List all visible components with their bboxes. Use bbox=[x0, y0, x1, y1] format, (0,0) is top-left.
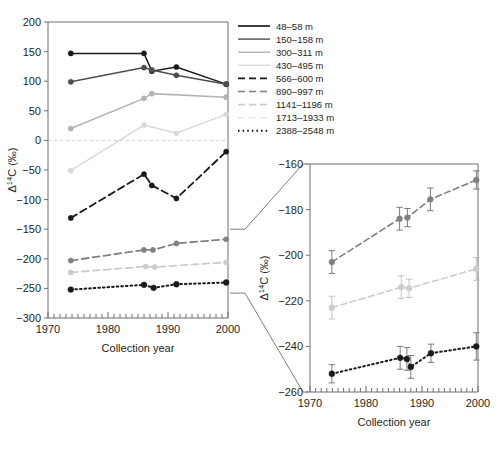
data-point bbox=[473, 344, 479, 350]
y-tick-label: −160 bbox=[278, 158, 303, 170]
inset-x-axis-title: Collection year bbox=[358, 416, 431, 428]
legend-item-2: 150–158 m bbox=[238, 34, 324, 45]
series-4 bbox=[68, 112, 229, 173]
legend-item-6: 890–997 m bbox=[238, 86, 324, 97]
legend-item-7: 1141–1196 m bbox=[238, 99, 333, 110]
y-tick-label: −100 bbox=[16, 194, 41, 206]
inset-series-1 bbox=[329, 171, 480, 274]
data-point bbox=[174, 131, 179, 136]
data-point bbox=[405, 215, 411, 221]
data-point bbox=[68, 168, 73, 173]
inset-y-axis-title: Δ14C (‰) bbox=[257, 255, 270, 300]
data-point bbox=[174, 281, 180, 287]
series-8 bbox=[68, 280, 229, 293]
data-point bbox=[404, 356, 410, 362]
legend-label: 48–58 m bbox=[276, 21, 313, 32]
figure-svg: 200150100500−50−100−150−200−250−300Δ14C … bbox=[0, 0, 504, 450]
y-tick-label: 100 bbox=[23, 75, 41, 87]
data-point bbox=[174, 196, 179, 201]
y-tick-label: −50 bbox=[22, 164, 41, 176]
legend-label: 1141–1196 m bbox=[276, 99, 333, 110]
inset-plot-panel: −160−180−200−220−240−260Δ14C (‰)19701980… bbox=[257, 158, 490, 428]
data-point bbox=[174, 73, 179, 78]
data-point bbox=[174, 241, 179, 246]
data-point bbox=[473, 266, 479, 272]
x-tick-label: 1970 bbox=[298, 397, 322, 409]
main-x-axis-title: Collection year bbox=[102, 342, 175, 354]
legend-label: 890–997 m bbox=[276, 86, 324, 97]
main-y-axis-title: Δ14C (‰) bbox=[5, 147, 18, 192]
data-point bbox=[141, 282, 147, 288]
legend-label: 1713–1933 m bbox=[276, 112, 334, 123]
legend-label: 566–600 m bbox=[276, 73, 324, 84]
data-point bbox=[224, 82, 229, 87]
y-tick-label: 50 bbox=[29, 105, 41, 117]
legend-item-8: 1713–1933 m bbox=[238, 112, 334, 123]
data-point bbox=[149, 91, 154, 96]
data-point bbox=[68, 126, 73, 131]
x-tick-label: 1980 bbox=[96, 323, 120, 335]
data-point bbox=[174, 64, 179, 69]
data-point bbox=[68, 287, 74, 293]
series-2 bbox=[68, 65, 229, 87]
x-tick-label: 2000 bbox=[466, 397, 490, 409]
x-tick-label: 2000 bbox=[216, 323, 240, 335]
main-plot-panel: 200150100500−50−100−150−200−250−300Δ14C … bbox=[5, 16, 240, 354]
data-point bbox=[68, 258, 73, 263]
data-point bbox=[68, 215, 73, 220]
y-tick-label: −250 bbox=[16, 282, 41, 294]
data-point bbox=[141, 65, 146, 70]
data-point bbox=[151, 285, 157, 291]
inset-series-3 bbox=[329, 333, 480, 383]
legend-label: 430–495 m bbox=[276, 60, 324, 71]
legend-label: 300–311 m bbox=[276, 47, 323, 58]
figure-container: 200150100500−50−100−150−200−250−300Δ14C … bbox=[0, 0, 504, 450]
data-point bbox=[152, 264, 157, 269]
series-6 bbox=[68, 237, 229, 264]
series-line bbox=[71, 239, 226, 260]
data-point bbox=[406, 285, 412, 291]
data-point bbox=[68, 270, 73, 275]
y-tick-label: −150 bbox=[16, 223, 41, 235]
inset-axis-frame bbox=[310, 164, 478, 392]
data-point bbox=[143, 264, 148, 269]
data-point bbox=[329, 371, 335, 377]
x-tick-label: 1990 bbox=[156, 323, 180, 335]
data-point bbox=[141, 172, 146, 177]
data-point bbox=[329, 305, 335, 311]
data-point bbox=[141, 96, 146, 101]
data-point bbox=[223, 280, 229, 286]
y-tick-label: 0 bbox=[35, 134, 41, 146]
y-tick-label: −200 bbox=[278, 249, 303, 261]
connector-upper bbox=[230, 164, 308, 229]
series-line bbox=[71, 282, 226, 289]
y-tick-label: 200 bbox=[23, 16, 41, 28]
data-point bbox=[224, 260, 229, 265]
series-5 bbox=[68, 149, 229, 221]
data-point bbox=[141, 247, 146, 252]
series-line bbox=[71, 114, 226, 170]
data-point bbox=[408, 364, 414, 370]
y-tick-label: −200 bbox=[16, 253, 41, 265]
main-y-axis: 200150100500−50−100−150−200−250−300Δ14C … bbox=[5, 16, 48, 324]
axis-frame bbox=[48, 22, 228, 318]
data-point bbox=[224, 237, 229, 242]
legend: 48–58 m150–158 m300–311 m430–495 m566–60… bbox=[238, 21, 334, 137]
inset-series-2 bbox=[329, 257, 480, 319]
y-tick-label: −220 bbox=[278, 295, 303, 307]
data-point bbox=[149, 67, 154, 72]
y-tick-label: −240 bbox=[278, 340, 303, 352]
inset-series-group bbox=[329, 171, 480, 383]
legend-label: 2388–2548 m bbox=[276, 125, 334, 136]
data-point bbox=[224, 95, 229, 100]
inset-y-axis: −160−180−200−220−240−260Δ14C (‰) bbox=[257, 158, 310, 398]
data-point bbox=[68, 79, 73, 84]
data-point bbox=[224, 112, 229, 117]
data-point bbox=[141, 51, 146, 56]
series-line bbox=[71, 152, 226, 218]
data-point bbox=[68, 51, 73, 56]
y-tick-label: −180 bbox=[278, 204, 303, 216]
legend-item-3: 300–311 m bbox=[238, 47, 323, 58]
data-point bbox=[141, 122, 146, 127]
main-series-group bbox=[68, 51, 229, 293]
